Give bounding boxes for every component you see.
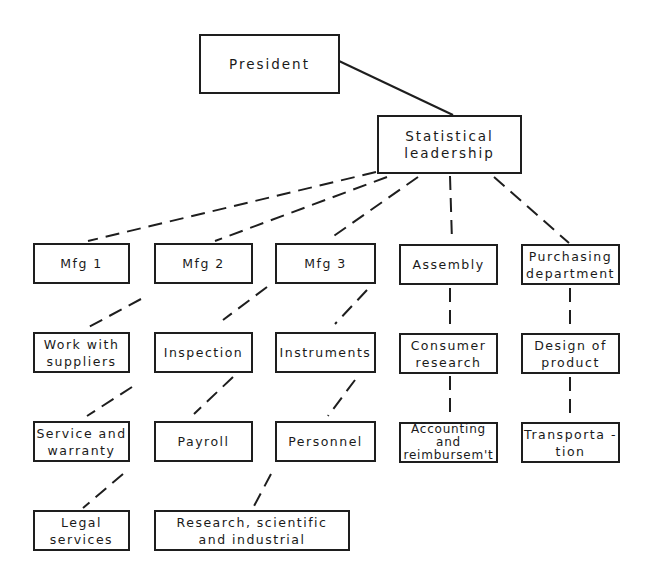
node-label: Inspection	[164, 344, 244, 361]
node-work-suppliers: Work with suppliers	[33, 332, 130, 373]
node-label: Payroll	[178, 433, 230, 450]
node-label: Mfg 2	[182, 255, 225, 272]
node-label: Design of product	[534, 337, 607, 371]
node-label: Mfg 1	[60, 255, 103, 272]
node-accounting: Accounting and reimbursem't	[399, 422, 498, 463]
node-label: Personnel	[288, 433, 363, 450]
node-label: Assembly	[412, 256, 484, 273]
edge-statistical-mfg3	[328, 177, 418, 240]
node-label: Work with suppliers	[44, 336, 120, 370]
node-label: Purchasing department	[526, 248, 615, 282]
node-inspection: Inspection	[154, 332, 253, 373]
edge-mfg1-work	[85, 299, 141, 329]
node-legal-services: Legal services	[33, 510, 130, 551]
node-label: Legal services	[50, 514, 113, 548]
node-label: Instruments	[280, 344, 372, 361]
node-purchasing: Purchasing department	[521, 244, 620, 285]
node-label: Mfg 3	[304, 255, 347, 272]
node-service-warranty: Service and warranty	[33, 421, 130, 462]
edge-mfg2-inspection	[223, 287, 267, 320]
node-label: Accounting and reimbursem't	[403, 423, 493, 462]
node-transportation: Transporta - tion	[521, 422, 620, 463]
edge-statistical-assembly	[450, 176, 452, 241]
node-consumer-research: Consumer research	[399, 333, 498, 374]
node-instruments: Instruments	[275, 332, 376, 373]
edge-service-legal	[83, 474, 123, 508]
edge-instruments-personnel	[328, 380, 355, 416]
node-design-product: Design of product	[521, 333, 620, 374]
edge-statistical-purchasing	[494, 177, 569, 243]
node-label: Transporta - tion	[524, 426, 617, 460]
node-president: President	[199, 34, 340, 94]
node-label: President	[229, 56, 310, 73]
edge-mfg3-instruments	[335, 290, 367, 324]
edge-statistical-mfg1	[88, 172, 376, 241]
node-label: Research, scientific and industrial	[177, 514, 328, 548]
edge-statistical-mfg2	[215, 177, 387, 241]
node-statistical-leadership: Statistical leadership	[377, 115, 522, 174]
node-mfg2: Mfg 2	[154, 243, 253, 284]
node-personnel: Personnel	[275, 421, 376, 462]
node-label: Statistical leadership	[404, 128, 495, 162]
node-label: Consumer research	[411, 337, 487, 371]
edge-personnel-research	[253, 474, 271, 508]
node-research: Research, scientific and industrial	[154, 510, 350, 551]
node-payroll: Payroll	[154, 421, 253, 462]
node-mfg3: Mfg 3	[275, 243, 376, 284]
edge-work-service	[87, 387, 132, 416]
node-assembly: Assembly	[399, 244, 498, 285]
edge-inspection-payroll	[194, 377, 233, 414]
node-mfg1: Mfg 1	[33, 243, 130, 284]
edge-president-statistical	[339, 61, 453, 115]
node-label: Service and warranty	[36, 425, 126, 459]
